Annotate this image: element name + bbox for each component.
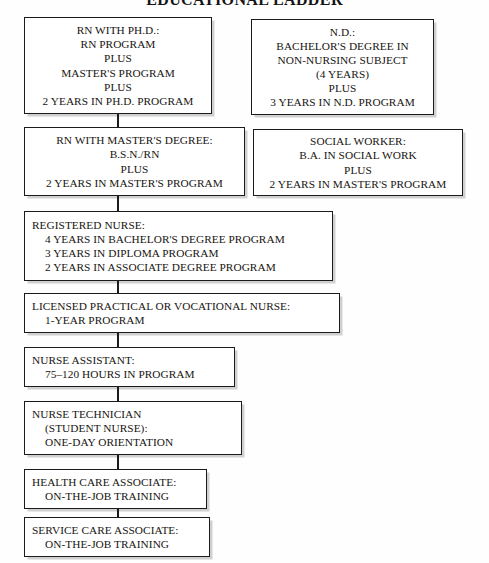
text-line: MASTER'S PROGRAM	[29, 66, 207, 80]
text-line: 2 YEARS IN MASTER'S PROGRAM	[29, 176, 240, 190]
text-line: 75–120 HOURS IN PROGRAM	[32, 367, 231, 381]
text-line: RN WITH MASTER'S DEGREE:	[29, 133, 240, 147]
box-registered-nurse: REGISTERED NURSE: 4 YEARS IN BACHELOR'S …	[24, 211, 333, 281]
box-health-care-associate-text: HEALTH CARE ASSOCIATE: ON-THE-JOB TRAINI…	[25, 475, 206, 503]
text-line: HEALTH CARE ASSOCIATE:	[32, 475, 203, 489]
page-title: EDUCATIONAL LADDER	[0, 0, 489, 9]
text-line: B.A. IN SOCIAL WORK	[258, 148, 458, 162]
text-line: NURSE TECHNICIAN	[32, 407, 238, 421]
text-line: PLUS	[29, 162, 240, 176]
text-line: (STUDENT NURSE):	[32, 421, 238, 435]
text-line: REGISTERED NURSE:	[32, 218, 329, 232]
box-registered-nurse-text: REGISTERED NURSE: 4 YEARS IN BACHELOR'S …	[25, 218, 332, 274]
text-line: ON-THE-JOB TRAINING	[32, 489, 203, 503]
box-lpn-text: LICENSED PRACTICAL OR VOCATIONAL NURSE: …	[25, 299, 339, 327]
text-line: LICENSED PRACTICAL OR VOCATIONAL NURSE:	[32, 299, 336, 313]
text-line: B.S.N./RN	[29, 147, 240, 161]
text-line: BACHELOR'S DEGREE IN	[256, 39, 429, 53]
connector-line	[117, 281, 119, 293]
connector-line	[117, 509, 119, 517]
text-line: PLUS	[256, 81, 429, 95]
text-line: SERVICE CARE ASSOCIATE:	[32, 523, 206, 537]
text-line: SOCIAL WORKER:	[258, 134, 458, 148]
text-line: NURSE ASSISTANT:	[32, 353, 231, 367]
connector-line	[117, 196, 119, 211]
box-nurse-technician: NURSE TECHNICIAN (STUDENT NURSE): ONE-DA…	[24, 401, 242, 455]
connector-line	[117, 455, 119, 469]
connector-line	[117, 333, 119, 347]
text-line: 4 YEARS IN BACHELOR'S DEGREE PROGRAM	[32, 232, 329, 246]
text-line: 2 YEARS IN MASTER'S PROGRAM	[258, 177, 458, 191]
box-social-worker: SOCIAL WORKER: B.A. IN SOCIAL WORK PLUS …	[253, 129, 463, 196]
box-health-care-associate: HEALTH CARE ASSOCIATE: ON-THE-JOB TRAINI…	[24, 469, 207, 509]
text-line: ONE-DAY ORIENTATION	[32, 435, 238, 449]
text-line: PLUS	[29, 80, 207, 94]
text-line: RN PROGRAM	[29, 37, 207, 51]
box-nurse-assistant: NURSE ASSISTANT: 75–120 HOURS IN PROGRAM	[24, 347, 235, 387]
text-line: (4 YEARS)	[256, 67, 429, 81]
text-line: 3 YEARS IN N.D. PROGRAM	[256, 95, 429, 109]
educational-ladder-diagram: EDUCATIONAL LADDER RN WITH PH.D.: RN PRO…	[0, 0, 489, 563]
box-nurse-assistant-text: NURSE ASSISTANT: 75–120 HOURS IN PROGRAM	[25, 353, 234, 381]
box-nd-text: N.D.: BACHELOR'S DEGREE IN NON-NURSING S…	[252, 25, 433, 110]
box-rn-with-masters-degree-text: RN WITH MASTER'S DEGREE: B.S.N./RN PLUS …	[25, 133, 244, 189]
text-line: 2 YEARS IN PH.D. PROGRAM	[29, 94, 207, 108]
connector-line	[117, 387, 119, 401]
text-line: PLUS	[258, 163, 458, 177]
box-service-care-associate: SERVICE CARE ASSOCIATE: ON-THE-JOB TRAIN…	[24, 517, 210, 557]
connector-line	[117, 114, 119, 127]
box-service-care-associate-text: SERVICE CARE ASSOCIATE: ON-THE-JOB TRAIN…	[25, 523, 209, 551]
text-line: ON-THE-JOB TRAINING	[32, 537, 206, 551]
box-rn-with-phd-text: RN WITH PH.D.: RN PROGRAM PLUS MASTER'S …	[25, 23, 211, 108]
box-licensed-practical-or-vocational-nurse: LICENSED PRACTICAL OR VOCATIONAL NURSE: …	[24, 293, 340, 333]
text-line: 3 YEARS IN DIPLOMA PROGRAM	[32, 246, 329, 260]
text-line: PLUS	[29, 51, 207, 65]
box-nd: N.D.: BACHELOR'S DEGREE IN NON-NURSING S…	[251, 19, 434, 115]
box-nurse-technician-text: NURSE TECHNICIAN (STUDENT NURSE): ONE-DA…	[25, 407, 241, 449]
text-line: N.D.:	[256, 25, 429, 39]
text-line: 1-YEAR PROGRAM	[32, 313, 336, 327]
text-line: NON-NURSING SUBJECT	[256, 53, 429, 67]
box-rn-with-masters-degree: RN WITH MASTER'S DEGREE: B.S.N./RN PLUS …	[24, 127, 245, 196]
text-line: RN WITH PH.D.:	[29, 23, 207, 37]
box-social-worker-text: SOCIAL WORKER: B.A. IN SOCIAL WORK PLUS …	[254, 134, 462, 190]
box-rn-with-phd: RN WITH PH.D.: RN PROGRAM PLUS MASTER'S …	[24, 17, 212, 114]
text-line: 2 YEARS IN ASSOCIATE DEGREE PROGRAM	[32, 260, 329, 274]
